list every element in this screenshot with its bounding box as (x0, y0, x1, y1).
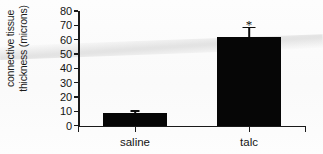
y-axis-tick-label: 70 (60, 19, 72, 31)
x-axis-edge-tick (78, 127, 79, 132)
y-axis-tick (74, 82, 78, 83)
y-axis-tick-label: 10 (60, 105, 72, 117)
bar-chart-figure: connective tissue thickness (microns) 01… (0, 0, 323, 154)
bar-talc (217, 37, 281, 126)
y-axis-tick (74, 53, 78, 54)
y-axis-tick-label: 20 (60, 91, 72, 103)
bar-saline (103, 113, 167, 126)
y-axis-tick (74, 10, 78, 11)
y-axis-tick (74, 39, 78, 40)
y-axis-tick (74, 125, 78, 126)
x-axis-line (78, 126, 306, 128)
y-axis-tick-label: 50 (60, 48, 72, 60)
error-bar-cap-saline (131, 110, 140, 112)
x-axis-tick (135, 127, 136, 132)
x-axis-tick (249, 127, 250, 132)
y-axis-label-line-2: thickness (microns) (16, 0, 29, 109)
y-axis-tick-label: 60 (60, 34, 72, 46)
y-axis-label: connective tissue thickness (microns) (4, 0, 29, 109)
y-axis-tick (74, 96, 78, 97)
y-axis-line (78, 11, 80, 127)
y-axis-tick-label: 80 (60, 5, 72, 17)
y-axis-tick-label: 30 (60, 77, 72, 89)
x-axis-tick-label-talc: talc (240, 136, 258, 148)
y-axis-tick-label: 0 (66, 120, 72, 132)
y-axis-tick (74, 68, 78, 69)
y-axis-tick (74, 25, 78, 26)
y-axis-label-line-1: connective tissue (4, 0, 17, 109)
plot-area: 01020304050607080salinetalc* (78, 11, 306, 127)
significance-asterisk: * (246, 18, 253, 31)
x-axis-tick-label-saline: saline (120, 136, 150, 148)
y-axis-tick-label: 40 (60, 62, 72, 74)
x-axis-edge-tick (305, 127, 306, 132)
y-axis-tick (74, 111, 78, 112)
